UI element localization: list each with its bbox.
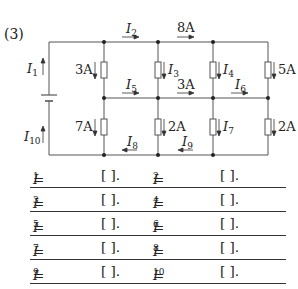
answer-row-2: I3 = [ ]. I4 = [ ]. (30, 187, 286, 212)
label-7a: 7A (75, 120, 93, 133)
answer-row-3: I5 = [ ]. I6 = [ ]. (30, 211, 286, 236)
answer-blank-i7[interactable]: [ ]. (101, 239, 120, 255)
label-i6: I6 (235, 78, 246, 96)
answer-blank-i1[interactable]: [ ]. (101, 167, 120, 183)
answer-row-4: I7 = [ ]. I8 = [ ]. (30, 235, 286, 260)
answer-blank-i10[interactable]: [ ]. (220, 263, 239, 279)
circuit-diagram (0, 0, 298, 170)
label-i5: I5 (126, 78, 137, 96)
label-i8: I8 (127, 135, 138, 153)
answer-row-1: I1 = [ ]. I2 = [ ]. (30, 163, 286, 188)
label-i7: I7 (223, 120, 234, 138)
answer-blank-i6[interactable]: [ ]. (220, 215, 239, 231)
answer-row-5: I9 = [ ]. I10 = [ ]. (30, 259, 286, 284)
label-i2: I2 (126, 22, 137, 40)
answer-blank-i5[interactable]: [ ]. (101, 215, 120, 231)
label-5a: 5A (278, 63, 296, 76)
label-i4: I4 (223, 63, 234, 81)
answer-blank-i2[interactable]: [ ]. (220, 167, 239, 183)
answer-blank-i9[interactable]: [ ]. (101, 263, 120, 279)
label-i1: I1 (27, 62, 38, 80)
label-i9: I9 (182, 135, 193, 153)
answer-blank-i3[interactable]: [ ]. (101, 191, 120, 207)
label-3a-mid: 3A (177, 78, 195, 91)
label-2a-right: 2A (278, 120, 296, 133)
answer-blank-i8[interactable]: [ ]. (220, 239, 239, 255)
label-2a-mid: 2A (168, 120, 186, 133)
label-3a-left-top: 3A (75, 63, 93, 76)
answer-blank-i4[interactable]: [ ]. (220, 191, 239, 207)
label-8a: 8A (177, 21, 195, 34)
label-i10: I10 (24, 130, 41, 148)
